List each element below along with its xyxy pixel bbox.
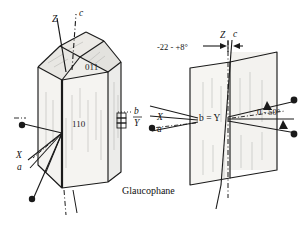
- right-lower-pointer-dot: [291, 131, 298, 138]
- right-extinction-angle-label: 0 - 50°: [257, 107, 280, 117]
- right-extinction-angle-top-label: -22 - +8°: [157, 42, 188, 52]
- right-upper-pointer-dot: [291, 97, 298, 104]
- right-a-axis-label: a: [157, 124, 162, 134]
- left-crystal-face-right: [108, 62, 121, 182]
- left-b-axis-label: b: [134, 106, 139, 116]
- right-left-pointer-dot: [149, 125, 155, 131]
- glaucophane-optical-orientation-figure: Z c 011 110 b Y X a: [0, 0, 302, 227]
- left-face-label-110: 110: [72, 119, 86, 129]
- left-X-axis-label: X: [15, 150, 23, 160]
- left-z-axis-label: Z: [52, 14, 58, 24]
- figure-caption: Glaucophane: [122, 185, 175, 196]
- left-face-label-011: 011: [85, 62, 98, 72]
- right-bY-axis-label: b = Y: [199, 113, 221, 123]
- right-X-axis-label: X: [156, 112, 164, 122]
- left-pointer-dot-upper: [19, 122, 25, 128]
- right-z-axis-label: Z: [220, 30, 226, 40]
- left-a-axis-label: a: [17, 162, 22, 172]
